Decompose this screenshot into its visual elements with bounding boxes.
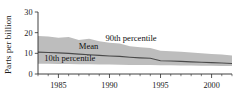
90th-percentile-label: 90th percentile — [105, 33, 156, 43]
x-tick-label: 1990 — [101, 81, 117, 90]
10th-percentile-label: 10th percentile — [44, 53, 95, 63]
chart-svg: 0102030 1985199019952000 Parts per billi… — [0, 0, 244, 103]
x-axis-ticks — [38, 74, 232, 78]
y-tick-label: 0 — [28, 70, 32, 79]
y-tick-label: 30 — [24, 8, 32, 17]
y-tick-label: 20 — [24, 29, 32, 38]
x-tick-label: 1995 — [152, 81, 168, 90]
y-axis-tick-labels: 0102030 — [24, 8, 32, 79]
mean-label: Mean — [79, 41, 99, 51]
x-axis-tick-labels: 1985199019952000 — [50, 81, 220, 90]
y-tick-label: 10 — [24, 49, 32, 58]
chart-container: 0102030 1985199019952000 Parts per billi… — [0, 0, 244, 103]
y-axis-ticks — [35, 12, 38, 74]
x-tick-label: 2000 — [203, 81, 219, 90]
x-tick-label: 1985 — [50, 81, 66, 90]
y-axis-title: Parts per billion — [3, 15, 13, 74]
